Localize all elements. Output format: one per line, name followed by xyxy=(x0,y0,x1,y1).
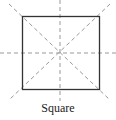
diagram-caption: Square xyxy=(0,101,116,116)
